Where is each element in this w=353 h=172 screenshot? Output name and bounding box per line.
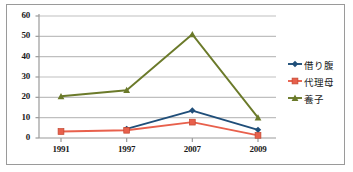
series-layer bbox=[58, 31, 262, 138]
legend-item-label: 代理母 bbox=[304, 75, 334, 89]
x-axis-tick-label: 2007 bbox=[172, 144, 212, 154]
legend-symbols bbox=[288, 61, 302, 101]
y-axis-tick-label: 50 bbox=[8, 30, 30, 40]
y-axis-tick-label: 0 bbox=[8, 132, 30, 142]
x-axis-tick-label: 1997 bbox=[107, 144, 147, 154]
x-axis-tick-label: 2009 bbox=[238, 144, 278, 154]
x-axis-tick-label: 1991 bbox=[41, 144, 81, 154]
y-axis-tick-label: 30 bbox=[8, 71, 30, 81]
y-axis-tick-label: 40 bbox=[8, 51, 30, 61]
x-tick-marks bbox=[61, 138, 258, 142]
y-axis-tick-label: 60 bbox=[8, 10, 30, 20]
gridlines bbox=[39, 16, 276, 118]
legend-item-label: 養子 bbox=[304, 92, 324, 106]
y-axis-tick-label: 20 bbox=[8, 91, 30, 101]
y-axis-tick-label: 10 bbox=[8, 112, 30, 122]
legend-item-label: 借り腹 bbox=[304, 58, 334, 72]
